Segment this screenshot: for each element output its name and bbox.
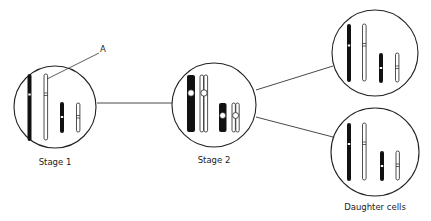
chromosome-long-light	[44, 74, 48, 140]
chromosome-long-dark	[28, 74, 32, 141]
chromosome-long-dark	[347, 24, 351, 82]
stage1-cell	[14, 66, 96, 148]
connector-stage2-daughter-bottom	[256, 117, 333, 137]
cell-division-diagram: A	[0, 0, 431, 221]
annotation-label-a: A	[100, 44, 106, 54]
stage1-label: Stage 1	[39, 157, 72, 167]
chromosome-short-light	[396, 53, 399, 82]
stage2-cell	[172, 63, 256, 147]
stage2-label: Stage 2	[198, 155, 231, 165]
chromosome-long-dark	[347, 123, 351, 181]
chromatid-pair-long-dark	[187, 75, 195, 132]
chromosome-short-light	[396, 151, 399, 180]
chromatid-pair-long-light	[200, 75, 208, 132]
daughter-cell-bottom	[331, 108, 419, 196]
chromosome-long-light	[363, 24, 367, 81]
chromatid-pair-short-light	[232, 103, 239, 132]
daughter-cell-top	[332, 10, 418, 96]
daughter-cells-label: Daughter cells	[344, 202, 406, 212]
connector-stage2-daughter-top	[256, 66, 333, 90]
chromosome-short-light	[77, 103, 80, 132]
chromosome-long-light	[363, 123, 367, 180]
